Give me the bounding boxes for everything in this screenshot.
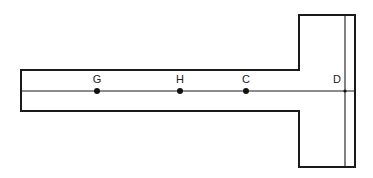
point-d-marker xyxy=(343,89,346,92)
diagram-canvas xyxy=(0,0,373,178)
point-h-marker xyxy=(177,88,183,94)
point-d-label: D xyxy=(333,74,341,85)
point-h-label: H xyxy=(176,74,184,85)
point-g-label: G xyxy=(93,74,102,85)
point-g-marker xyxy=(94,88,100,94)
point-c-marker xyxy=(243,88,249,94)
point-c-label: C xyxy=(242,74,250,85)
